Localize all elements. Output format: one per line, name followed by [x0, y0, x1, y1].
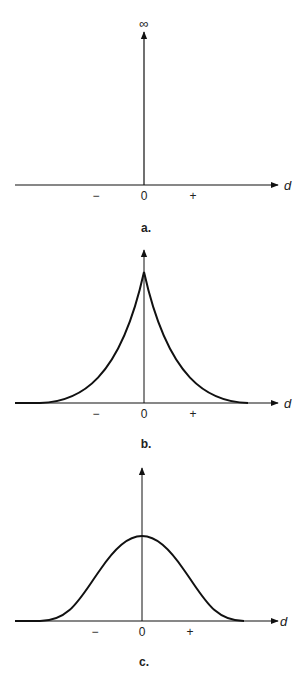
caption-a: a.	[141, 221, 151, 235]
axis-label-d: d	[284, 178, 292, 193]
tick-zero: 0	[141, 189, 148, 203]
infinity-label: ∞	[139, 16, 148, 31]
tick-plus: +	[189, 189, 196, 203]
cusp-curve	[15, 272, 248, 403]
tick-minus: −	[91, 625, 98, 639]
panel-a: ∞ d − 0 + a.	[15, 16, 292, 235]
tick-minus: −	[92, 407, 99, 421]
tick-plus: +	[186, 625, 193, 639]
panel-c: d − 0 + c.	[15, 468, 288, 669]
panel-b: d − 0 + b.	[15, 250, 292, 451]
bell-curve	[15, 536, 244, 621]
caption-b: b.	[141, 437, 152, 451]
figure-canvas: ∞ d − 0 + a. d − 0 + b. d − 0 + c.	[0, 0, 305, 679]
tick-minus: −	[92, 189, 99, 203]
axis-label-d: d	[280, 614, 288, 629]
axis-label-d: d	[284, 396, 292, 411]
tick-zero: 0	[141, 407, 148, 421]
caption-c: c.	[139, 655, 149, 669]
tick-zero: 0	[139, 625, 146, 639]
tick-plus: +	[189, 407, 196, 421]
